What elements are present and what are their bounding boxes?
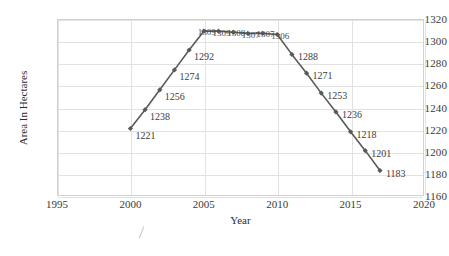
data-point-label: 1221 (135, 131, 155, 141)
gridline-horizontal (58, 86, 423, 87)
data-point-label: 1306 (271, 31, 289, 41)
x-axis-tick-label: 1995 (32, 199, 82, 210)
data-point-label: 1183 (386, 169, 406, 179)
x-axis-tick-label: 2020 (399, 199, 449, 210)
data-point-label: 1271 (313, 71, 333, 81)
gridline-vertical (58, 20, 59, 195)
data-point-label: 1253 (327, 91, 347, 101)
gridline-horizontal (58, 153, 423, 154)
scan-artifact (139, 226, 145, 238)
y-axis-title-wrap: Area In Hectares (8, 19, 28, 196)
data-point-label: 1238 (150, 112, 170, 122)
x-axis-title: Year (57, 214, 424, 226)
data-point-label: 1256 (165, 92, 185, 102)
data-point-label: 1201 (371, 149, 391, 159)
gridline-horizontal (58, 64, 423, 65)
data-point-label: 1288 (298, 52, 318, 62)
data-point-label: 1218 (357, 130, 377, 140)
x-axis-tick-label: 2000 (105, 199, 155, 210)
data-point-label: 1236 (342, 110, 362, 120)
gridline-vertical (131, 20, 132, 195)
gridline-horizontal (58, 109, 423, 110)
plot-area (57, 19, 424, 196)
data-point-label: 1292 (194, 52, 214, 62)
data-point-label: 1274 (179, 72, 199, 82)
gridline-vertical (205, 20, 206, 195)
x-axis-tick-label: 2010 (252, 199, 302, 210)
gridline-vertical (352, 20, 353, 195)
gridline-vertical (278, 20, 279, 195)
gridline-horizontal (58, 20, 423, 21)
gridline-horizontal (58, 197, 423, 198)
gridline-vertical (425, 20, 426, 195)
x-axis-tick-label: 2015 (326, 199, 376, 210)
gridline-horizontal (58, 42, 423, 43)
y-axis-title: Area In Hectares (17, 43, 29, 173)
gridline-horizontal (58, 175, 423, 176)
x-axis-tick-label: 2005 (179, 199, 229, 210)
